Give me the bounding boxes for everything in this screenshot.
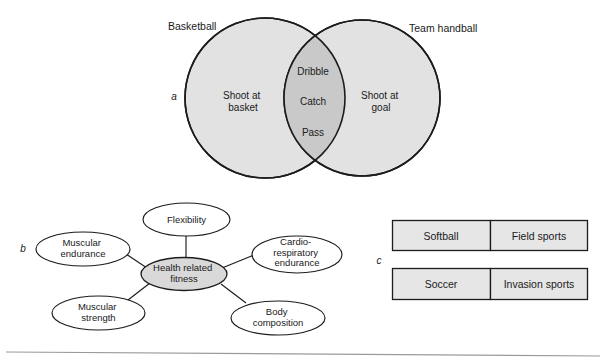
part-letter-c: c bbox=[377, 255, 382, 266]
venn-overlap-item-pass: Pass bbox=[302, 127, 324, 138]
connector-center-body-composition bbox=[221, 284, 246, 303]
venn-overlap-item-dribble: Dribble bbox=[297, 66, 329, 77]
venn-diagram: a Basketball Team handball Shoot at bask… bbox=[168, 18, 477, 178]
venn-right-title: Team handball bbox=[409, 22, 477, 34]
label-boxes: c Softball Field sports Soccer Invasion … bbox=[377, 221, 588, 300]
connector-center-muscular-endurance bbox=[126, 254, 147, 268]
label-box-row-2-left-label: Soccer bbox=[425, 278, 458, 290]
composite-figure: a Basketball Team handball Shoot at bask… bbox=[0, 0, 606, 362]
part-letter-b: b bbox=[20, 243, 26, 254]
venn-left-only-label: Shoot at basket bbox=[223, 90, 263, 113]
label-box-row-2-right-label: Invasion sports bbox=[504, 278, 575, 290]
connector-center-cardio bbox=[222, 255, 254, 268]
spider-node-flexibility: Flexibility bbox=[143, 203, 230, 236]
part-letter-a: a bbox=[171, 91, 177, 102]
spider-node-cardio-respiratory-endurance: Cardio- respiratory endurance bbox=[252, 236, 342, 273]
spider-node-flexibility-label: Flexibility bbox=[167, 214, 206, 225]
venn-left-title: Basketball bbox=[168, 20, 216, 32]
spider-node-muscular-strength-label: Muscular strength bbox=[78, 301, 119, 323]
spider-diagram: Flexibility Muscular endurance Cardio- r… bbox=[20, 203, 342, 335]
venn-overlap-item-catch: Catch bbox=[300, 96, 326, 107]
connector-center-muscular-strength bbox=[128, 283, 150, 300]
spider-node-muscular-strength: Muscular strength bbox=[52, 296, 145, 330]
label-box-row-1-right-label: Field sports bbox=[512, 230, 566, 242]
spider-node-cardio-respiratory-endurance-label: Cardio- respiratory endurance bbox=[273, 236, 321, 268]
bottom-divider bbox=[6, 352, 600, 356]
label-box-row-2: Soccer Invasion sports bbox=[393, 269, 588, 300]
label-box-row-1-left-label: Softball bbox=[423, 230, 458, 242]
label-box-row-1: Softball Field sports bbox=[393, 221, 588, 251]
figure-page: a Basketball Team handball Shoot at bask… bbox=[0, 0, 606, 362]
spider-node-muscular-endurance: Muscular endurance bbox=[36, 232, 130, 266]
spider-node-muscular-endurance-label: Muscular endurance bbox=[61, 237, 106, 259]
spider-node-body-composition: Body composition bbox=[231, 301, 325, 335]
spider-node-center: Health related fitness bbox=[141, 258, 227, 291]
